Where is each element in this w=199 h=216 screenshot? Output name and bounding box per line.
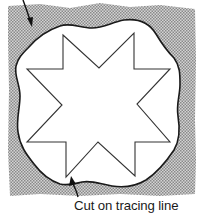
cut-on-tracing-line-caption: Cut on tracing line xyxy=(74,198,178,213)
cutting-diagram xyxy=(0,0,199,216)
